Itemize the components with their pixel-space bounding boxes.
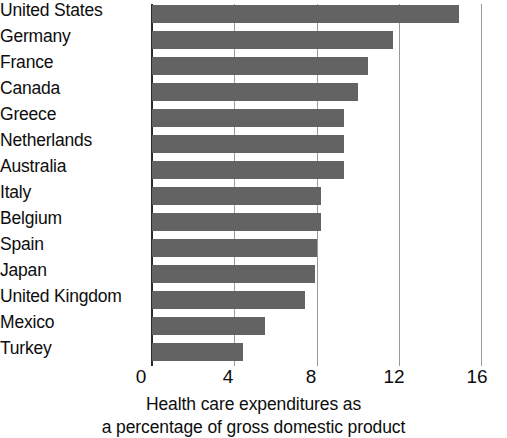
bar-netherlands <box>152 135 344 153</box>
category-label-greece: Greece <box>0 106 142 123</box>
category-label-france: France <box>0 54 142 71</box>
category-label-japan: Japan <box>0 262 142 279</box>
category-label-belgium: Belgium <box>0 210 142 227</box>
bar-turkey <box>152 343 243 361</box>
bar-canada <box>152 83 358 101</box>
x-tick-4: 4 <box>223 366 234 387</box>
category-label-mexico: Mexico <box>0 314 142 331</box>
category-label-turkey: Turkey <box>0 340 142 357</box>
category-label-australia: Australia <box>0 158 142 175</box>
gridline-16 <box>481 4 482 366</box>
bar-greece <box>152 109 344 127</box>
bar-spain <box>152 239 317 257</box>
bar-united-kingdom <box>152 291 305 309</box>
bar-belgium <box>152 213 321 231</box>
chart-caption: Health care expenditures as a percentage… <box>0 393 507 438</box>
bar-france <box>152 57 368 75</box>
category-label-spain: Spain <box>0 236 142 253</box>
bar-united-states <box>152 5 459 23</box>
x-axis-tick-labels: 0 4 8 12 16 <box>0 366 507 392</box>
gridline-12 <box>399 4 400 366</box>
x-tick-8: 8 <box>306 366 317 387</box>
category-axis-labels: United States Germany France Canada Gree… <box>0 0 148 366</box>
category-label-united-kingdom: United Kingdom <box>0 288 142 305</box>
x-tick-16: 16 <box>466 366 487 387</box>
bar-japan <box>152 265 315 283</box>
category-label-netherlands: Netherlands <box>0 132 142 149</box>
category-label-canada: Canada <box>0 80 142 97</box>
category-label-germany: Germany <box>0 28 142 45</box>
bar-italy <box>152 187 321 205</box>
x-tick-12: 12 <box>383 366 404 387</box>
x-tick-0: 0 <box>136 366 147 387</box>
bar-germany <box>152 31 393 49</box>
category-label-united-states: United States <box>0 2 142 19</box>
caption-line-1: Health care expenditures as <box>0 393 507 416</box>
bar-mexico <box>152 317 265 335</box>
caption-line-2: a percentage of gross domestic product <box>0 416 507 438</box>
category-label-italy: Italy <box>0 184 142 201</box>
bar-chart: United States Germany France Canada Gree… <box>0 0 507 438</box>
bar-australia <box>152 161 344 179</box>
plot-area <box>152 4 484 366</box>
